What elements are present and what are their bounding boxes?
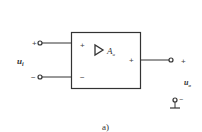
input-plus-sign: + xyxy=(32,39,37,48)
amplifier-diagram: + − ui + − + Au + uo − a) xyxy=(0,0,202,132)
block-input-minus: − xyxy=(80,73,85,82)
output-plus-terminal-icon xyxy=(169,58,173,62)
input-label: ui xyxy=(17,56,24,67)
input-minus-terminal-icon xyxy=(38,75,42,79)
block-input-plus: + xyxy=(80,41,85,50)
output-label: uo xyxy=(184,78,191,88)
input-minus-sign: − xyxy=(31,73,36,82)
amplifier-triangle-icon xyxy=(95,45,103,55)
output-minus-sign: − xyxy=(179,96,183,103)
ground-terminal-icon xyxy=(173,98,177,102)
output-plus-sign: + xyxy=(181,57,186,66)
figure-caption: a) xyxy=(102,122,109,132)
gain-label: Au xyxy=(106,46,116,57)
block-output-plus: + xyxy=(129,56,134,65)
input-plus-terminal-icon xyxy=(38,41,42,45)
